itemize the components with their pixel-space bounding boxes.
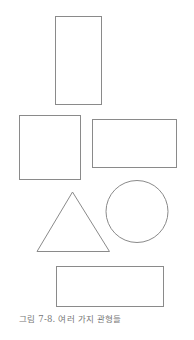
wide-rectangle <box>93 120 177 168</box>
figure-caption: 그림 7-8. 여러 가지 관형들 <box>19 312 122 324</box>
square <box>20 116 81 180</box>
circle <box>106 181 168 243</box>
triangle <box>37 192 110 252</box>
tall-rectangle <box>56 17 102 105</box>
figure-shapes <box>0 0 194 340</box>
bottom-rectangle <box>57 267 164 307</box>
